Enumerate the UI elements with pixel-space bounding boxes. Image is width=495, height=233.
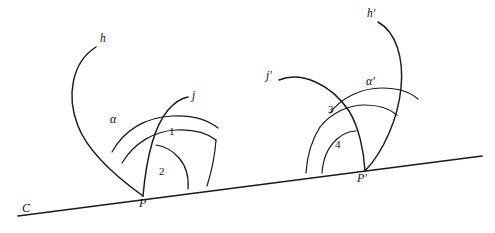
- label-angle-alpha-prime: α': [366, 75, 375, 87]
- geometry-diagram: C P P' h j h' j' α α' 1 2 3 4: [0, 0, 495, 233]
- label-line-c: C: [22, 202, 30, 214]
- label-angle-3: 3: [328, 104, 334, 115]
- label-angle-2: 2: [159, 166, 165, 177]
- angle-3-arc-foot: [306, 127, 320, 173]
- ray-j-curve: [143, 97, 188, 196]
- label-angle-alpha: α: [110, 113, 116, 125]
- angle-1-arc-foot: [207, 140, 216, 186]
- diagram-canvas: [0, 0, 495, 233]
- label-ray-h: h: [100, 33, 106, 45]
- label-ray-j: j: [192, 90, 195, 102]
- angle-alpha-arc: [112, 116, 218, 152]
- label-ray-j-prime: j': [266, 70, 272, 82]
- label-vertex-p: P: [139, 197, 146, 209]
- label-vertex-p-prime: P': [357, 172, 367, 184]
- baseline-c: [18, 156, 482, 216]
- label-angle-1: 1: [169, 126, 175, 137]
- label-ray-h-prime: h': [367, 8, 375, 20]
- ray-h-prime-curve: [365, 22, 402, 171]
- ray-h-curve: [72, 47, 143, 196]
- label-angle-4: 4: [335, 139, 341, 150]
